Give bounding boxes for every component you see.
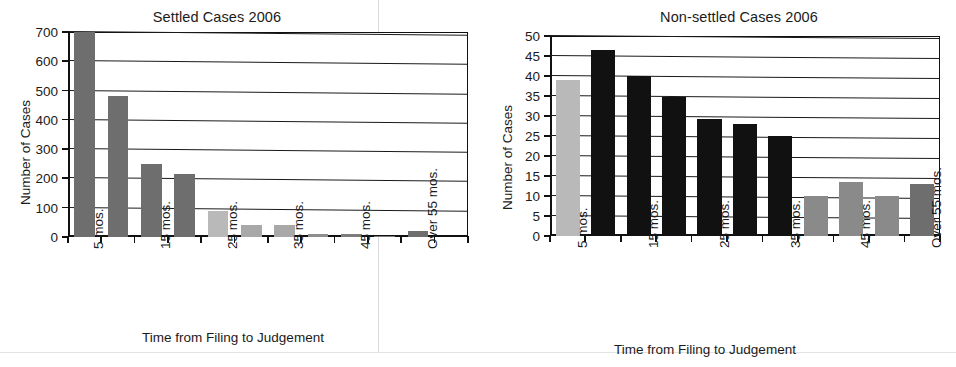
y-axis-tick <box>62 119 69 121</box>
x-axis-tick-label: 25 mos. <box>225 201 240 249</box>
y-axis-tick-label: 100 <box>16 200 58 215</box>
gridline <box>68 31 468 36</box>
y-axis-tick <box>544 195 551 197</box>
x-axis-caption-nonsettled: Time from Filing to Judgement <box>540 342 870 357</box>
y-axis-tick-label: 35 <box>498 89 540 104</box>
bar <box>591 50 615 236</box>
bar <box>174 174 195 237</box>
y-axis-tick-label: 50 <box>498 29 540 44</box>
y-axis-tick-label: 300 <box>16 142 58 157</box>
chart-panel-nonsettled: Non-settled Cases 2006 Number of Cases 0… <box>478 0 956 367</box>
y-axis-tick-label: 30 <box>498 109 540 124</box>
y-axis-tick-label: 500 <box>16 83 58 98</box>
y-axis-tick-label: 5 <box>498 209 540 224</box>
bar <box>108 96 129 237</box>
bar-series-settled: 0100200300400500600700 <box>68 32 468 237</box>
x-axis-tick <box>334 236 336 243</box>
x-axis-tick-label: 15 mos. <box>158 201 173 249</box>
chart-title-nonsettled: Non-settled Cases 2006 <box>500 9 956 25</box>
bar <box>804 196 828 236</box>
bar <box>374 236 395 237</box>
x-axis-tick <box>904 235 906 242</box>
bar <box>241 225 262 237</box>
figure-page: Settled Cases 2006 Number of Cases 01002… <box>0 0 956 367</box>
x-axis-tick <box>620 235 622 242</box>
x-axis-tick-label: 25 mos. <box>717 200 732 248</box>
bar-series-nonsettled: 05101520253035404550 <box>550 36 940 236</box>
x-axis-tick <box>134 236 136 243</box>
x-axis-tick <box>833 235 835 242</box>
x-axis-tick <box>400 236 402 243</box>
y-axis-tick <box>544 215 551 217</box>
y-axis-tick-label: 400 <box>16 112 58 127</box>
bar <box>733 124 757 236</box>
y-axis-tick-label: 0 <box>498 229 540 244</box>
y-axis-tick-label: 700 <box>16 25 58 40</box>
bar <box>875 196 899 236</box>
y-axis-tick <box>62 177 69 179</box>
x-axis-tick-label: 5 mos. <box>575 207 590 248</box>
y-axis-tick-label: 20 <box>498 149 540 164</box>
x-axis-tick <box>762 235 764 242</box>
x-axis-tick <box>691 235 693 242</box>
gridline <box>68 60 468 65</box>
x-axis-tick-label: 45 mos. <box>358 201 373 249</box>
y-axis-tick <box>544 95 551 97</box>
y-axis-tick-label: 200 <box>16 171 58 186</box>
y-axis-tick <box>62 31 69 33</box>
x-axis-tick-label: 35 mos. <box>291 201 306 249</box>
y-axis-tick <box>62 60 69 62</box>
x-axis-tick <box>67 236 69 243</box>
y-axis-tick <box>544 135 551 137</box>
y-axis-tick <box>544 155 551 157</box>
x-axis-tick-label: 5 mos. <box>91 208 106 249</box>
gridline <box>68 90 468 95</box>
x-axis-tick-label: 15 mos. <box>646 200 661 248</box>
x-axis-tick <box>549 235 551 242</box>
y-axis-tick-label: 15 <box>498 169 540 184</box>
y-axis-tick <box>62 148 69 150</box>
y-axis-tick <box>62 90 69 92</box>
y-axis-tick-label: 25 <box>498 129 540 144</box>
y-axis-tick <box>544 35 551 37</box>
y-axis-tick <box>62 207 69 209</box>
plot-area-settled: 0100200300400500600700 <box>68 32 468 237</box>
y-axis-tick <box>544 75 551 77</box>
x-axis-tick-label: 45 mos. <box>858 200 873 248</box>
plot-area-nonsettled: 05101520253035404550 <box>550 36 940 236</box>
y-axis-tick-label: 40 <box>498 69 540 84</box>
x-axis-tick-label: 35 mos. <box>788 200 803 248</box>
bar <box>74 32 95 237</box>
x-axis-tick <box>267 236 269 243</box>
y-axis-tick-label: 600 <box>16 54 58 69</box>
bar <box>308 234 329 238</box>
x-axis-tick-label: Over 55 mos. <box>929 167 944 248</box>
chart-title-settled: Settled Cases 2006 <box>0 9 456 25</box>
x-axis-tick-label: Over 55 mos. <box>425 168 440 249</box>
y-axis-tick-label: 0 <box>16 230 58 245</box>
y-axis-tick-label: 45 <box>498 49 540 64</box>
gridline <box>550 35 940 39</box>
bar <box>662 97 686 236</box>
y-axis-tick <box>544 115 551 117</box>
x-axis-tick <box>200 236 202 243</box>
y-axis-tick <box>544 55 551 57</box>
chart-panel-settled: Settled Cases 2006 Number of Cases 01002… <box>0 0 478 367</box>
y-axis-tick <box>544 175 551 177</box>
x-axis-caption-settled: Time from Filing to Judgement <box>68 330 398 345</box>
x-axis-tick <box>467 236 469 243</box>
y-axis-tick-label: 10 <box>498 189 540 204</box>
